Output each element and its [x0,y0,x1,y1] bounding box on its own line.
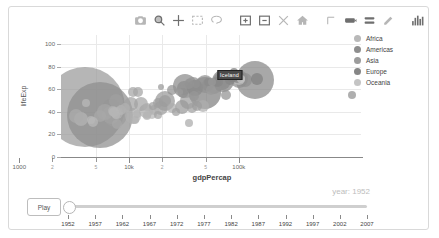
x-tick-label: 5 [95,164,98,170]
y-tick [57,67,61,68]
plot-canvas[interactable]: Iceland [61,35,361,157]
slider-tick-label[interactable]: 1962 [116,221,129,227]
legend-item[interactable]: Oceania [354,77,426,88]
year-readout: year: 1952 [332,187,370,196]
y-tick [57,112,61,113]
legend-label: Americas [366,46,393,53]
x-tick-label: 1000 [13,164,26,170]
bubble-marker[interactable] [154,111,162,119]
slider-tick[interactable] [150,215,151,219]
x-tick [162,158,163,162]
year-slider[interactable]: Play 19521957196219671972197719821987199… [27,198,417,228]
legend-swatch-icon [354,35,361,42]
slider-tick[interactable] [367,215,368,219]
bubble-marker[interactable] [131,116,139,124]
legend-swatch-icon [354,68,361,75]
legend-item[interactable]: Europe [354,66,426,77]
point-hover-label: Iceland [217,70,242,80]
slider-tick-label[interactable]: 1992 [279,221,292,227]
slider-tick-label[interactable]: 2007 [360,221,373,227]
gridline-horizontal [61,44,361,45]
legend-swatch-icon [354,57,361,64]
y-tick [57,44,61,45]
legend[interactable]: AfricaAmericasAsiaEuropeOceania [354,33,426,88]
y-tick [57,89,61,90]
bubble-marker[interactable] [348,91,356,99]
bubble-marker[interactable] [206,85,216,95]
slider-tick-label[interactable]: 1957 [89,221,102,227]
slider-tick[interactable] [231,215,232,219]
slider-handle[interactable] [63,201,76,214]
x-tick-label: 2 [51,164,54,170]
slider-tick-label[interactable]: 1982 [224,221,237,227]
legend-label: Africa [366,35,383,42]
bubble-marker[interactable] [192,101,202,111]
legend-swatch-icon [354,46,361,53]
play-button[interactable]: Play [27,198,61,216]
slider-tick[interactable] [68,215,69,219]
legend-item[interactable]: Americas [354,44,426,55]
slider-tick-label[interactable]: 1987 [252,221,265,227]
slider-track[interactable] [68,205,367,208]
bubble-marker[interactable] [82,99,90,107]
bubble-marker[interactable] [69,109,83,123]
x-axis-title: gdpPercap [61,173,363,182]
slider-tick[interactable] [204,215,205,219]
bubble-marker[interactable] [120,103,130,113]
gridline-horizontal [61,67,361,68]
bubble-marker[interactable] [128,87,138,97]
bubble-marker[interactable] [149,102,157,110]
y-tick [57,134,61,135]
slider-tick-label[interactable]: 1967 [143,221,156,227]
bubble-marker[interactable] [208,78,216,86]
legend-item[interactable]: Africa [354,33,426,44]
x-tick [19,158,20,163]
bubble-marker[interactable] [112,111,120,119]
slider-tick[interactable] [286,215,287,219]
slider-tick-label[interactable]: 1977 [197,221,210,227]
slider-tick[interactable] [313,215,314,219]
x-tick-label: 5 [204,164,207,170]
legend-label: Europe [366,68,387,75]
x-tick [239,158,240,163]
x-tick [96,158,97,162]
bubble-marker[interactable] [221,90,231,100]
y-tick-label: 100 [29,41,55,47]
bubble-marker[interactable] [172,108,180,116]
y-tick-label: 0 [29,154,55,160]
y-tick-label: 20 [29,131,55,137]
bubble-marker[interactable] [112,119,122,129]
bubble-marker[interactable] [158,84,164,90]
bubble-marker[interactable] [87,116,95,124]
slider-tick[interactable] [95,215,96,219]
x-tick-label: 100k [232,164,245,170]
y-tick [57,157,61,158]
slider-tick[interactable] [258,215,259,219]
x-tick [206,158,207,162]
bubble-marker[interactable] [177,89,183,95]
slider-tick[interactable] [340,215,341,219]
legend-swatch-icon [354,79,361,86]
y-axis-title: lifeExp [20,85,27,106]
legend-label: Oceania [366,79,390,86]
bubble-marker[interactable] [167,85,177,95]
slider-tick[interactable] [122,215,123,219]
x-tick [129,158,130,163]
legend-label: Asia [366,57,379,64]
bubble-marker[interactable] [189,91,199,101]
x-tick-label: 2 [161,164,164,170]
slider-tick-label[interactable]: 1972 [170,221,183,227]
y-tick-label: 40 [29,109,55,115]
bubble-marker[interactable] [192,80,200,88]
slider-tick[interactable] [177,215,178,219]
bubble-marker[interactable] [251,73,263,85]
graph-card: lifeExp Iceland 51002510002510k25100k gd… [8,6,429,230]
y-tick-label: 80 [29,64,55,70]
slider-tick-label[interactable]: 1952 [61,221,74,227]
slider-tick-label[interactable]: 1997 [306,221,319,227]
legend-item[interactable]: Asia [354,55,426,66]
bubble-marker[interactable] [143,111,151,119]
slider-tick-label[interactable]: 2002 [333,221,346,227]
bubble-marker[interactable] [185,119,193,127]
gridline-vertical [239,35,240,157]
